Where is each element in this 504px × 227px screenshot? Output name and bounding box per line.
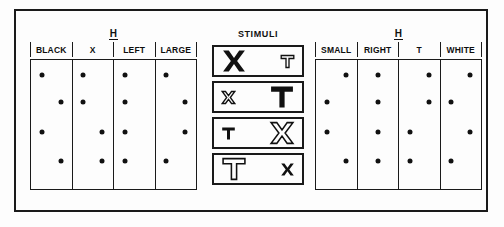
column-header-right: RIGHT bbox=[357, 42, 399, 57]
stimuli-panel: STIMULI bbox=[208, 28, 308, 190]
attribute-dot bbox=[426, 73, 431, 78]
attribute-dot bbox=[164, 73, 169, 78]
right-panel-header-row: SMALL RIGHT T WHITE bbox=[315, 42, 482, 57]
attribute-dot bbox=[468, 73, 473, 78]
right-panel-title-text: H bbox=[394, 28, 404, 40]
column-header-t: T bbox=[398, 42, 440, 57]
column-header-x: X bbox=[72, 42, 114, 57]
left-panel-title-text: H bbox=[109, 28, 119, 40]
stimulus-t-small-outline-icon bbox=[280, 54, 295, 69]
attribute-dot bbox=[375, 73, 380, 78]
attribute-column-large: LARGE bbox=[155, 60, 197, 189]
attribute-dot bbox=[100, 130, 105, 135]
attribute-column-label: X bbox=[73, 60, 74, 61]
column-header-black: BLACK bbox=[31, 42, 72, 57]
attribute-column-small: SMALL bbox=[316, 60, 357, 189]
attribute-dot bbox=[122, 159, 127, 164]
attribute-dot bbox=[164, 159, 169, 164]
attribute-dot bbox=[375, 130, 380, 135]
column-header-large: LARGE bbox=[155, 42, 197, 57]
stimulus-t-large-solid-icon bbox=[269, 84, 295, 110]
attribute-dot bbox=[407, 159, 412, 164]
attribute-column-label: LARGE bbox=[156, 60, 157, 61]
attribute-column-label: T bbox=[399, 60, 400, 61]
attribute-dot bbox=[58, 159, 63, 164]
stimulus-card-3[interactable] bbox=[212, 117, 304, 149]
attribute-dot bbox=[122, 100, 127, 105]
attribute-column-white: WHITE bbox=[440, 60, 482, 189]
attribute-dot bbox=[100, 159, 105, 164]
column-header-left: LEFT bbox=[113, 42, 155, 57]
stimulus-x-large-outline-icon bbox=[269, 120, 295, 146]
stimulus-x-small-solid-icon bbox=[280, 162, 295, 177]
attribute-dot bbox=[375, 159, 380, 164]
left-panel-grid: BLACKXLEFTLARGE bbox=[30, 59, 197, 190]
stimulus-x-large-solid-icon bbox=[221, 48, 247, 74]
right-panel-grid: SMALLRIGHTTWHITE bbox=[315, 59, 482, 190]
attribute-dot bbox=[343, 73, 348, 78]
attribute-dot bbox=[407, 130, 412, 135]
attribute-column-label: WHITE bbox=[441, 60, 442, 61]
attribute-dot bbox=[122, 73, 127, 78]
column-header-white: WHITE bbox=[440, 42, 482, 57]
figure-root: H BLACK X LEFT LARGE BLACKXLEFTLARGE STI… bbox=[0, 0, 504, 227]
stimulus-t-small-solid-icon bbox=[221, 126, 236, 141]
attribute-dot bbox=[58, 100, 63, 105]
left-attribute-panel: H BLACK X LEFT LARGE BLACKXLEFTLARGE bbox=[30, 28, 197, 190]
attribute-column-label: BLACK bbox=[31, 60, 32, 61]
attribute-dot bbox=[81, 100, 86, 105]
attribute-dot bbox=[449, 159, 454, 164]
left-panel-title: H bbox=[30, 28, 197, 40]
attribute-column-label: RIGHT bbox=[358, 60, 359, 61]
attribute-column-x: X bbox=[72, 60, 114, 189]
attribute-column-right: RIGHT bbox=[357, 60, 399, 189]
attribute-column-black: BLACK bbox=[31, 60, 72, 189]
attribute-dot bbox=[324, 130, 329, 135]
stimuli-title: STIMULI bbox=[208, 28, 308, 40]
attribute-dot bbox=[183, 100, 188, 105]
attribute-dot bbox=[324, 100, 329, 105]
right-panel-title: H bbox=[315, 28, 482, 40]
attribute-column-left: LEFT bbox=[113, 60, 155, 189]
attribute-dot bbox=[343, 159, 348, 164]
attribute-dot bbox=[81, 73, 86, 78]
stimulus-card-2[interactable] bbox=[212, 81, 304, 113]
attribute-dot bbox=[39, 73, 44, 78]
attribute-dot bbox=[183, 130, 188, 135]
column-header-small: SMALL bbox=[316, 42, 357, 57]
left-panel-header-row: BLACK X LEFT LARGE bbox=[30, 42, 197, 57]
attribute-dot bbox=[375, 100, 380, 105]
stimuli-list bbox=[212, 45, 304, 190]
stimulus-t-large-outline-icon bbox=[221, 156, 247, 182]
attribute-column-label: SMALL bbox=[316, 60, 317, 61]
stimulus-x-small-outline-icon bbox=[221, 90, 236, 105]
attribute-column-label: LEFT bbox=[114, 60, 115, 61]
stimulus-card-1[interactable] bbox=[212, 45, 304, 77]
attribute-dot bbox=[122, 130, 127, 135]
stimulus-card-4[interactable] bbox=[212, 153, 304, 185]
attribute-column-t: T bbox=[398, 60, 440, 189]
attribute-dot bbox=[468, 130, 473, 135]
attribute-dot bbox=[426, 100, 431, 105]
attribute-dot bbox=[449, 100, 454, 105]
right-attribute-panel: H SMALL RIGHT T WHITE SMALLRIGHTTWHITE bbox=[315, 28, 482, 190]
attribute-dot bbox=[39, 130, 44, 135]
